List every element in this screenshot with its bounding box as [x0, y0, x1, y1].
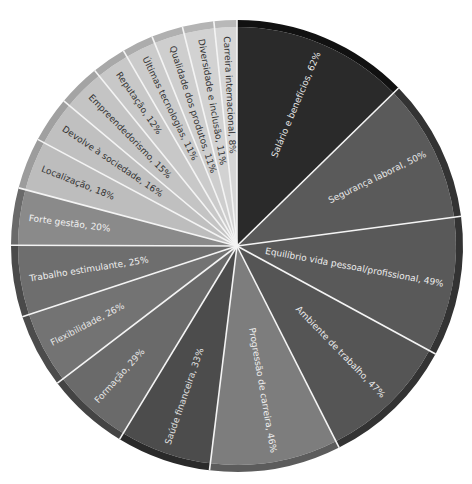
pie-slice-rim: [214, 20, 237, 28]
pie-chart: Salário e benefícios, 62%Segurança labor…: [0, 0, 472, 484]
slice-separator: [11, 245, 237, 246]
pie-slices: [11, 20, 463, 472]
